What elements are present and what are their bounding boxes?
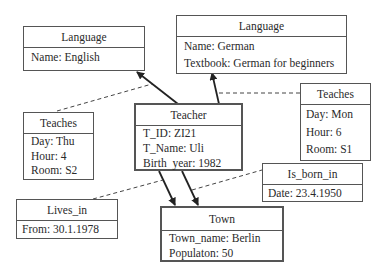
arrow-teacher-to-town-born: [182, 171, 198, 205]
object-title: Language: [177, 16, 346, 37]
attribute: Day: Thu: [31, 134, 93, 149]
dash-is-born-in: [192, 170, 262, 190]
arrow-teacher-to-language-german: [212, 73, 219, 104]
attribute: Name: German: [184, 38, 346, 55]
attribute: Date: 23.4.1950: [268, 185, 362, 202]
object-town: Town Town_name: Berlin Populaton: 50: [160, 206, 284, 262]
attribute: Name: English: [31, 49, 144, 66]
attribute: Day: Mon: [306, 106, 370, 124]
object-language-english: Language Name: English: [23, 26, 145, 71]
attribute: Textbook: German for beginners: [184, 55, 346, 72]
object-title: Teaches: [24, 113, 93, 134]
object-title: Lives_in: [17, 200, 117, 221]
attribute: Birth year: 1982: [143, 156, 241, 171]
attribute: From: 30.1.1978: [22, 221, 117, 238]
arrow-teacher-to-town-lives: [159, 171, 175, 205]
attribute: Town_name: Berlin: [169, 231, 282, 246]
object-language-german: Language Name: German Textbook: German f…: [176, 15, 347, 74]
attribute: Room: S2: [31, 163, 93, 178]
attribute: Hour: 4: [31, 149, 93, 164]
object-is-born-in: Is_born_in Date: 23.4.1950: [262, 163, 363, 202]
attribute: Hour: 6: [306, 124, 370, 142]
object-title: Teacher: [136, 105, 241, 126]
object-lives-in: Lives_in From: 30.1.1978: [16, 199, 118, 239]
attribute: Room: S1: [306, 141, 370, 159]
object-title: Teaches: [301, 84, 370, 105]
object-title: Town: [162, 208, 282, 231]
arrow-teacher-to-language-english: [137, 72, 178, 104]
object-teaches-left: Teaches Day: Thu Hour: 4 Room: S2: [23, 112, 94, 180]
dash-lives-in: [93, 180, 163, 199]
object-title: Is_born_in: [263, 164, 362, 185]
attribute: T_ID: ZI21: [143, 126, 241, 141]
attribute: T_Name: Uli: [143, 141, 241, 156]
object-teacher: Teacher T_ID: ZI21 T_Name: Uli Birth yea…: [134, 103, 243, 171]
attribute: Populaton: 50: [169, 246, 282, 261]
object-teaches-right: Teaches Day: Mon Hour: 6 Room: S1: [300, 83, 371, 161]
object-title: Language: [24, 27, 144, 48]
